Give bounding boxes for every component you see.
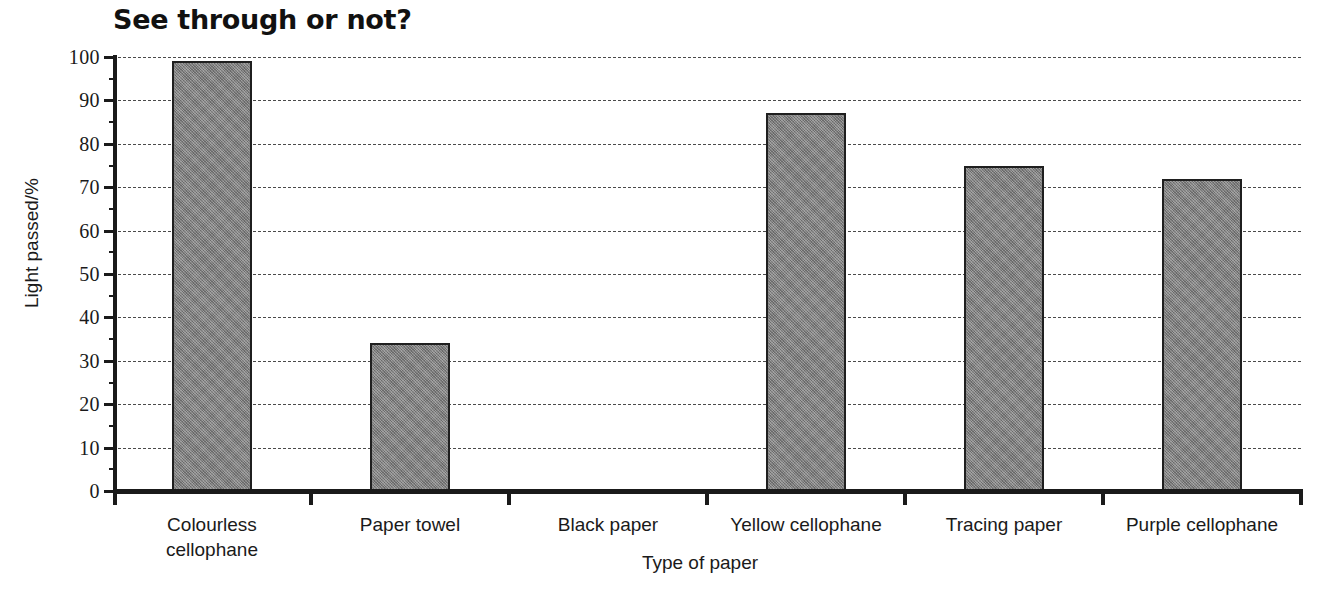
bars-group — [113, 57, 1301, 491]
y-axis-tick-label: 30 — [4, 349, 100, 372]
bar-slot — [1103, 57, 1301, 491]
x-axis-tick-label-line: Paper towel — [311, 512, 509, 537]
x-axis-tick-label: Yellow cellophane — [707, 512, 905, 537]
y-axis-tick-label: 0 — [4, 480, 100, 503]
y-axis-tick-label: 80 — [4, 132, 100, 155]
bar — [370, 343, 450, 491]
bar-slot — [707, 57, 905, 491]
x-axis-tick-label: Tracing paper — [905, 512, 1103, 537]
x-axis-tick — [113, 493, 117, 505]
y-axis-tick-label: 70 — [4, 176, 100, 199]
y-axis-tick-label: 20 — [4, 393, 100, 416]
x-axis-tick-label-line: Tracing paper — [905, 512, 1103, 537]
bar-slot — [905, 57, 1103, 491]
bar-chart: See through or not? Light passed/% 01020… — [0, 0, 1330, 604]
x-axis-tick-label: Black paper — [509, 512, 707, 537]
chart-title: See through or not? — [113, 4, 412, 35]
y-axis-tick-labels: 0102030405060708090100 — [0, 0, 100, 604]
x-axis-tick-label: Paper towel — [311, 512, 509, 537]
y-axis-tick-label: 60 — [4, 219, 100, 242]
x-axis-tick-label: Purple cellophane — [1103, 512, 1301, 537]
bar — [172, 61, 252, 491]
x-axis-tick-label-line: Colourless — [113, 512, 311, 537]
x-axis-tick — [705, 493, 709, 505]
y-axis-tick-label: 10 — [4, 436, 100, 459]
x-axis-tick-label-line: Black paper — [509, 512, 707, 537]
bar — [766, 113, 846, 491]
bar-slot — [311, 57, 509, 491]
bar — [964, 166, 1044, 492]
x-axis-tick-label-line: Yellow cellophane — [707, 512, 905, 537]
y-axis-tick-label: 100 — [4, 46, 100, 69]
x-axis-tick — [903, 493, 907, 505]
x-axis-title: Type of paper — [0, 552, 1330, 574]
bar-slot — [509, 57, 707, 491]
y-axis-tick-label: 90 — [4, 89, 100, 112]
x-axis-tick — [1299, 493, 1303, 505]
x-axis-tick — [507, 493, 511, 505]
y-axis-tick-label: 40 — [4, 306, 100, 329]
bar-slot — [113, 57, 311, 491]
x-axis-tick-label-line: Purple cellophane — [1103, 512, 1301, 537]
y-axis-tick-label: 50 — [4, 263, 100, 286]
x-axis-tick — [309, 493, 313, 505]
x-axis-tick — [1101, 493, 1105, 505]
bar — [1162, 179, 1242, 491]
